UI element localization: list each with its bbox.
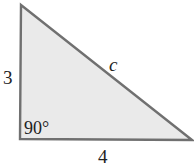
bottom-side-label: 4 [98,146,108,167]
left-side-label: 3 [3,67,13,88]
right-triangle-diagram: 3 c 90° 4 [0,0,194,168]
hypotenuse-label: c [109,54,118,75]
angle-label: 90° [24,118,49,138]
